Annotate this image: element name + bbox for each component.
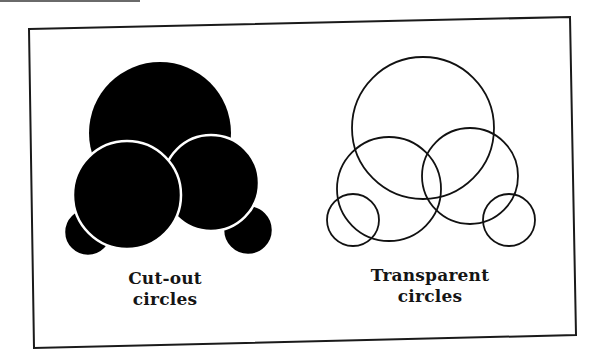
cut-out-circles-caption: Cut-out circles (110, 268, 220, 310)
transparent-circles-caption: Transparent circles (370, 265, 490, 307)
diagram-canvas (0, 0, 602, 360)
cut-out-circle-middle-left (73, 141, 181, 249)
caption-line-2: circles (370, 286, 490, 307)
transparent-circles-group (327, 57, 535, 246)
transparent-circle-middle-left (337, 137, 441, 241)
transparent-circle-middle-right (422, 128, 518, 224)
transparent-circle-bottom-left-small (327, 194, 379, 246)
cut-out-circles-group (64, 62, 273, 256)
caption-line-1: Cut-out (110, 268, 220, 289)
caption-line-1: Transparent (370, 265, 490, 286)
caption-line-2: circles (110, 289, 220, 310)
